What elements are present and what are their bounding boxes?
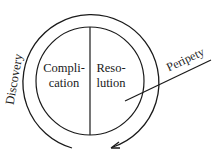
resolution-label-1: Reso- bbox=[96, 61, 125, 75]
peripety-label: Peripety bbox=[164, 45, 206, 75]
complication-label-1: Compli- bbox=[43, 61, 85, 75]
complication-label-2: cation bbox=[49, 76, 80, 90]
plot-diagram: Compli- cation Reso- lution Discovery Pe… bbox=[0, 0, 223, 159]
discovery-label: Discovery bbox=[3, 52, 26, 106]
outer-discovery-arc bbox=[23, 15, 159, 148]
resolution-label-2: lution bbox=[96, 76, 126, 90]
